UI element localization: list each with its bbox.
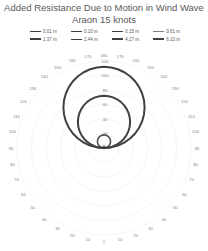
radial-tick-label: 80 [103, 88, 108, 93]
angular-tick-label: 120 [181, 99, 189, 104]
angular-tick-label: 20 [70, 233, 75, 238]
angular-tick-label: 130 [172, 86, 180, 91]
angular-tick-label: 70 [14, 177, 19, 182]
angular-tick-label: 180 [101, 53, 109, 58]
angular-tick-label: 10 [86, 237, 91, 242]
angular-tick-label: 110 [13, 114, 20, 119]
polar-plot: 2040608010012001020304050607080901001101… [0, 0, 208, 251]
angular-tick-label: 40 [161, 217, 166, 222]
angular-tick-label: 0 [103, 239, 106, 244]
angular-tick-label: 50 [173, 205, 178, 210]
angular-tick-label: 100 [192, 129, 200, 134]
radial-tick-label: 120 [102, 59, 110, 64]
angular-tick-label: 30 [55, 226, 60, 231]
angular-tick-label: 100 [9, 129, 17, 134]
angular-tick-label: 50 [30, 205, 35, 210]
angular-tick-label: 130 [29, 86, 37, 91]
angular-tick-label: 60 [182, 192, 187, 197]
angular-tick-label: 150 [54, 65, 62, 70]
angular-tick-label: 10 [118, 237, 123, 242]
series-curve [97, 135, 110, 148]
angular-tick-label: 120 [20, 99, 28, 104]
angular-tick-label: 20 [133, 233, 138, 238]
angular-tick-label: 90 [195, 146, 200, 151]
angular-tick-label: 80 [193, 162, 198, 167]
angular-tick-label: 60 [21, 192, 26, 197]
radial-tick-label: 100 [102, 73, 110, 78]
angular-tick-label: 170 [117, 54, 125, 59]
angular-tick-label: 30 [148, 226, 153, 231]
angular-tick-label: 80 [10, 162, 15, 167]
angular-tick-label: 40 [42, 217, 47, 222]
angular-tick-label: 90 [9, 146, 14, 151]
angular-tick-label: 140 [160, 74, 168, 79]
angular-tick-label: 170 [84, 54, 92, 59]
radial-tick-label: 60 [103, 102, 108, 107]
angular-tick-label: 160 [69, 58, 77, 63]
angular-tick-label: 70 [189, 177, 194, 182]
angular-tick-label: 160 [132, 58, 140, 63]
angular-tick-label: 110 [188, 114, 195, 119]
radial-tick-label: 40 [103, 117, 108, 122]
angular-tick-label: 150 [147, 65, 155, 70]
angular-tick-label: 140 [41, 74, 49, 79]
